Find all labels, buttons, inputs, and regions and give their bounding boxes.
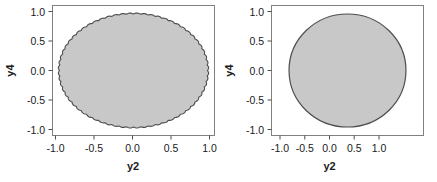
right-ytick-label-1: -0.5 <box>246 94 264 106</box>
right-plot-svg: -1.0 -0.5 0.0 0.5 1.0 1.0 0.5 0.0 -0.5 -… <box>219 0 437 182</box>
left-xtick-label-0: -1.0 <box>46 142 64 154</box>
right-xtick-label-3: 0.5 <box>347 142 362 154</box>
right-ytick-label-3: 0.5 <box>249 35 264 47</box>
left-x-axis-title: y2 <box>127 160 139 172</box>
left-ytick-label-3: 0.5 <box>30 35 45 47</box>
left-x-ticks <box>56 136 210 140</box>
right-xtick-label-4: 1.0 <box>372 142 387 154</box>
right-ytick-label-4: 1.0 <box>249 6 264 18</box>
right-ytick-label-0: -1.0 <box>246 124 264 136</box>
right-region-circle <box>289 14 406 127</box>
left-ytick-label-4: 1.0 <box>30 6 45 18</box>
left-ytick-label-2: 0.0 <box>30 65 45 77</box>
left-plot-panel: -1.0 -0.5 0.0 0.5 1.0 1.0 0.5 0.0 -0.5 -… <box>0 0 219 182</box>
right-xtick-label-0: -1.0 <box>271 142 289 154</box>
left-xtick-label-4: 1.0 <box>202 142 217 154</box>
right-xtick-label-2: 0.0 <box>322 142 337 154</box>
right-plot-panel: -1.0 -0.5 0.0 0.5 1.0 1.0 0.5 0.0 -0.5 -… <box>219 0 437 182</box>
right-ytick-label-2: 0.0 <box>249 65 264 77</box>
left-plot-svg: -1.0 -0.5 0.0 0.5 1.0 1.0 0.5 0.0 -0.5 -… <box>0 0 219 182</box>
right-xtick-label-1: -0.5 <box>296 142 314 154</box>
right-y-ticks <box>268 12 272 130</box>
left-y-ticks <box>49 12 53 130</box>
left-xtick-label-1: -0.5 <box>85 142 103 154</box>
left-xtick-label-3: 0.5 <box>164 142 179 154</box>
left-ytick-label-0: -1.0 <box>27 124 45 136</box>
right-x-axis-title: y2 <box>323 160 335 172</box>
left-xtick-label-2: 0.0 <box>125 142 140 154</box>
figure-canvas: -1.0 -0.5 0.0 0.5 1.0 1.0 0.5 0.0 -0.5 -… <box>0 0 437 182</box>
left-y-axis-title: y4 <box>4 64 16 77</box>
left-ytick-label-1: -0.5 <box>27 94 45 106</box>
right-x-ticks <box>280 136 379 140</box>
right-y-axis-title: y4 <box>223 64 235 77</box>
left-region-ellipse <box>58 13 208 128</box>
